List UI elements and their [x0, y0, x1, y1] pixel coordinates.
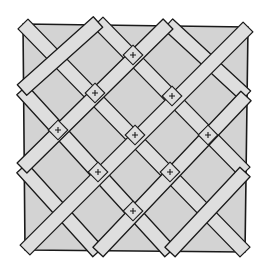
- lattice-diagram: [0, 0, 266, 276]
